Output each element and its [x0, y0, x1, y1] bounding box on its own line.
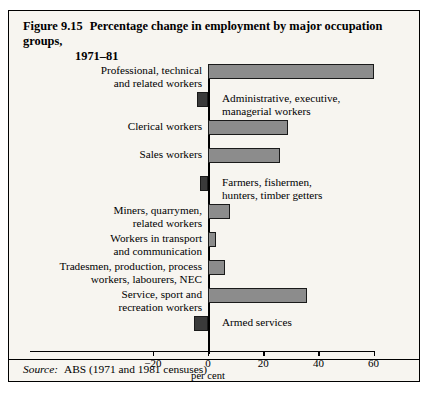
bar-row: Farmers, fishermen, hunters, timber gett… [9, 175, 421, 203]
source-line: Source:ABS (1971 and 1981 censuses) [23, 363, 207, 375]
bar [208, 120, 288, 135]
figure-title: Figure 9.15Percentage change in employme… [23, 19, 411, 64]
bar-category-label: Miners, quarrymen, related workers [2, 204, 202, 229]
x-axis-line [30, 351, 375, 352]
bar-category-label: Administrative, executive, managerial wo… [222, 92, 422, 117]
bar-row: Armed services [9, 315, 421, 343]
x-axis-tick [374, 351, 375, 356]
x-axis-tick [263, 351, 264, 356]
bar [197, 92, 208, 107]
bar-chart-plot-area: Professional, technical and related work… [9, 59, 421, 351]
bar-category-label: Clerical workers [2, 120, 202, 133]
bar [208, 288, 307, 303]
x-axis-tick [153, 351, 154, 356]
bar-category-label: Workers in transport and communication [2, 232, 202, 257]
bar-row: Workers in transport and communication [9, 231, 421, 259]
x-axis-tick [318, 351, 319, 356]
bar-row: Sales workers [9, 147, 421, 175]
bar-row: Miners, quarrymen, related workers [9, 203, 421, 231]
bar-row: Service, sport and recreation workers [9, 287, 421, 315]
bar-row: Professional, technical and related work… [9, 63, 421, 91]
bar-category-label: Tradesmen, production, process workers, … [2, 260, 202, 285]
bar [208, 148, 280, 163]
bar-category-label: Sales workers [2, 148, 202, 161]
figure-frame: Figure 9.15Percentage change in employme… [8, 10, 420, 382]
bar-category-label: Service, sport and recreation workers [2, 288, 202, 313]
bar [208, 232, 216, 247]
bar-row: Administrative, executive, managerial wo… [9, 91, 421, 119]
source-text: ABS (1971 and 1981 censuses) [64, 363, 207, 375]
figure-number: Figure 9.15 [23, 19, 83, 33]
bar [208, 260, 225, 275]
x-axis-tick [208, 351, 209, 356]
bar-category-label: Armed services [222, 316, 422, 329]
bar-category-label: Farmers, fishermen, hunters, timber gett… [222, 176, 422, 201]
source-divider [9, 359, 419, 360]
bar [200, 176, 208, 191]
source-label: Source: [23, 363, 58, 375]
bar-category-label: Professional, technical and related work… [2, 64, 202, 89]
bar-row: Tradesmen, production, process workers, … [9, 259, 421, 287]
bar-row: Clerical workers [9, 119, 421, 147]
bar [194, 316, 208, 331]
bar [208, 64, 374, 79]
bar [208, 204, 230, 219]
